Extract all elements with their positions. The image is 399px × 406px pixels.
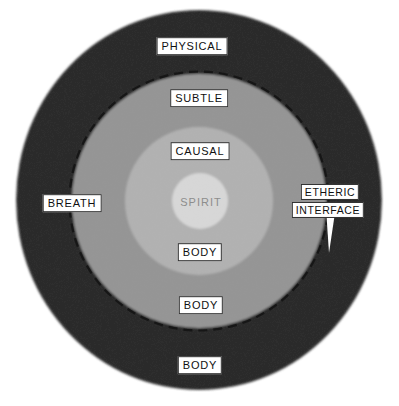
label-etheric: ETHERIC: [301, 184, 359, 200]
label-breath: BREATH: [43, 194, 102, 212]
label-interface: INTERFACE: [292, 202, 364, 218]
label-causal: CAUSAL: [171, 142, 230, 160]
label-physical: PHYSICAL: [157, 37, 228, 55]
label-physical-body: BODY: [178, 356, 222, 374]
label-spirit: SPIRIT: [176, 194, 225, 210]
label-subtle: SUBTLE: [170, 89, 228, 107]
label-causal-body: BODY: [178, 243, 222, 261]
label-subtle-body: BODY: [179, 296, 223, 314]
subtle-bodies-diagram: PHYSICAL SUBTLE CAUSAL SPIRIT BODY BODY …: [0, 0, 399, 406]
